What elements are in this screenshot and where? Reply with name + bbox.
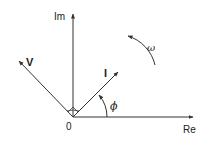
- phi-angle-arc: [99, 95, 107, 117]
- voltage-phasor-arrow: [19, 61, 73, 117]
- omega-rotation-label: ω: [147, 43, 155, 53]
- voltage-phasor-label: V: [26, 57, 33, 68]
- real-axis-label: Re: [183, 125, 196, 135]
- phi-angle-label: ϕ: [110, 101, 118, 112]
- origin-label: 0: [66, 122, 72, 132]
- current-phasor-label: I: [104, 68, 107, 79]
- phasor-diagram: Im Re 0 V I ϕ ω: [0, 0, 212, 144]
- imaginary-axis-label: Im: [54, 12, 65, 22]
